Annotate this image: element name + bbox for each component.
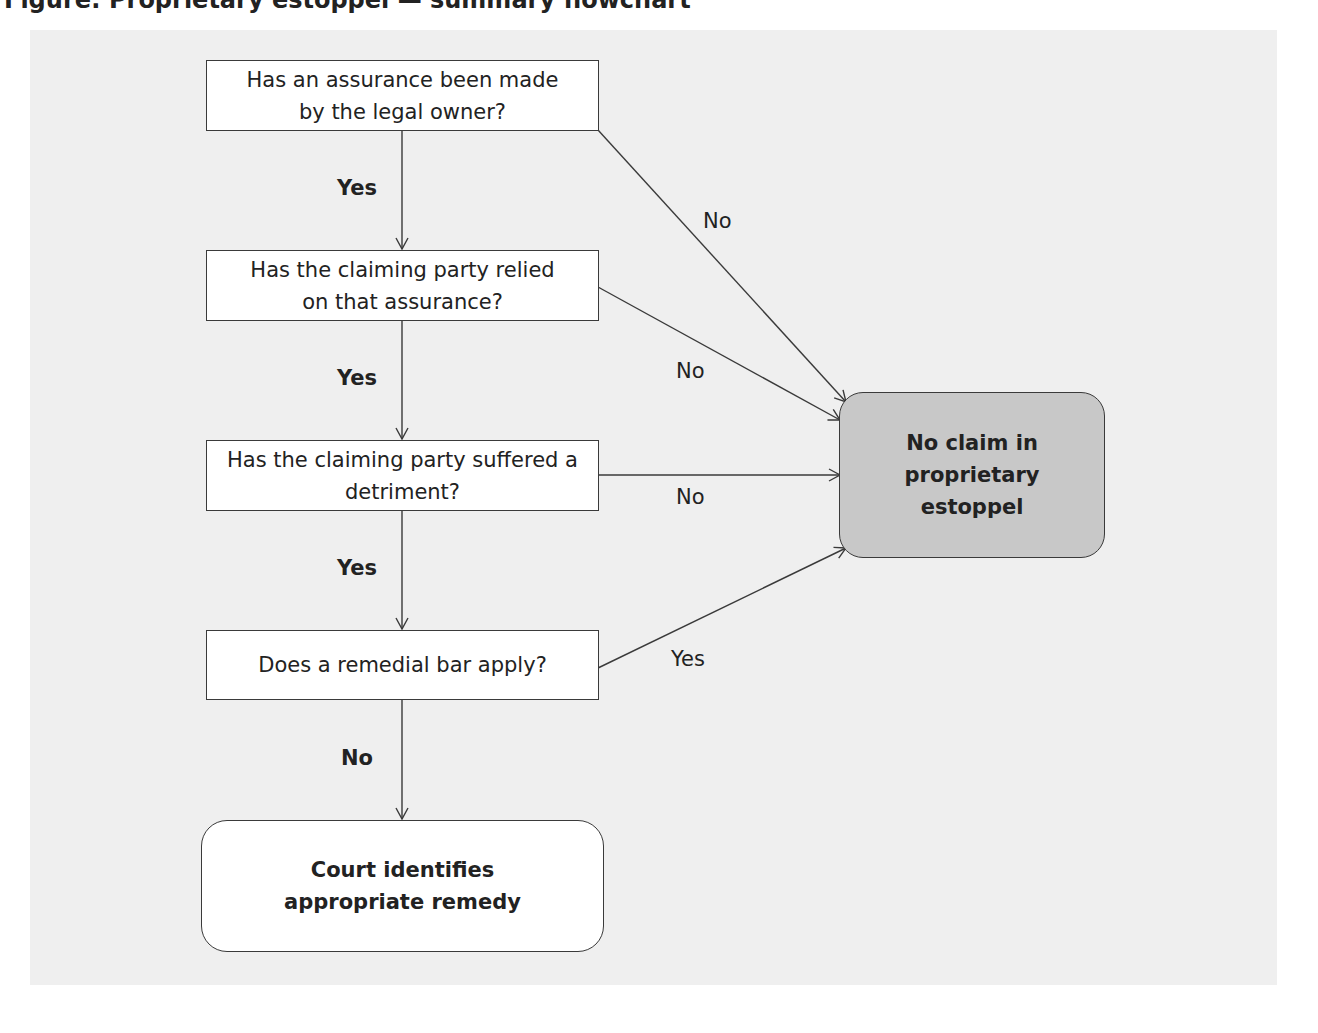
outcome-court-remedy-text: Court identifies appropriate remedy	[202, 854, 603, 918]
edge-label-q4-remedy: No	[341, 746, 373, 770]
outcome-no-claim: No claim in proprietary estoppel	[839, 392, 1105, 558]
question-detriment-text: Has the claiming party suffered a detrim…	[207, 444, 598, 508]
question-remedial-bar: Does a remedial bar apply?	[206, 630, 599, 700]
caption-text: Figure: Proprietary estoppel — summary f…	[4, 0, 691, 14]
edge-label-q1-noclaim: No	[703, 209, 732, 233]
question-assurance: Has an assurance been made by the legal …	[206, 60, 599, 131]
edge-label-q2-noclaim: No	[676, 359, 705, 383]
outcome-court-remedy: Court identifies appropriate remedy	[201, 820, 604, 952]
edge-label-q3-noclaim: No	[676, 485, 705, 509]
question-reliance-text: Has the claiming party relied on that as…	[207, 254, 598, 318]
question-assurance-text: Has an assurance been made by the legal …	[207, 64, 598, 128]
edge-label-q3-q4: Yes	[337, 556, 377, 580]
question-reliance: Has the claiming party relied on that as…	[206, 250, 599, 321]
outcome-no-claim-text: No claim in proprietary estoppel	[840, 427, 1104, 523]
edge-label-q1-q2: Yes	[337, 176, 377, 200]
question-detriment: Has the claiming party suffered a detrim…	[206, 440, 599, 511]
figure-caption-clipped: Figure: Proprietary estoppel — summary f…	[0, 0, 1318, 16]
edge-label-q4-noclaim: Yes	[671, 647, 705, 671]
edge-label-q2-q3: Yes	[337, 366, 377, 390]
question-remedial-bar-text: Does a remedial bar apply?	[258, 649, 547, 681]
